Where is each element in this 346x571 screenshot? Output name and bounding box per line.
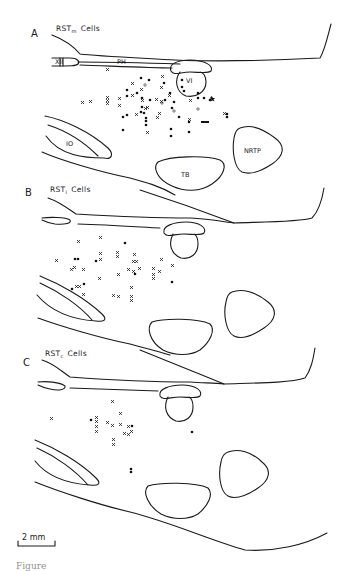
label-io: IO — [66, 140, 73, 148]
panel-a-title: RSTmCells — [56, 24, 100, 34]
panel-c-cell-markers — [50, 400, 193, 473]
panel-b-tb — [149, 319, 212, 354]
panel-a-tb — [156, 157, 224, 190]
panel-b-ph — [78, 224, 160, 228]
panel-c-io-outer — [35, 440, 99, 485]
label-vi: VI — [186, 77, 192, 85]
panel-b-vi-cap — [164, 222, 205, 236]
panel-c-title: RSTcCells — [45, 349, 87, 359]
panel-b-nrtp — [225, 290, 275, 337]
scale-bar-label: 2 mm — [22, 533, 45, 542]
panel-c-xii — [38, 382, 65, 390]
panel-c-tb — [146, 483, 211, 518]
panel-b: B RSTiCells — [25, 185, 324, 355]
panel-c: C RSTcCells — [23, 348, 327, 550]
panel-a-io-outer — [45, 116, 111, 158]
panel-c-ventral-outline — [35, 482, 327, 550]
dot-markers — [122, 77, 229, 138]
panel-b-title: RSTiCells — [50, 185, 91, 195]
panel-a-letter: A — [31, 28, 38, 39]
panel-c-vi-nucleus — [166, 397, 193, 421]
label-xii: XII — [55, 58, 63, 66]
panel-b-io-outer — [37, 276, 105, 321]
panel-a-cell-markers — [81, 68, 228, 137]
panel-b-vi-nucleus — [171, 234, 198, 258]
panel-c-ph — [70, 388, 158, 391]
label-ph: PH — [117, 58, 126, 66]
label-nrtp: NRTP — [244, 147, 261, 155]
scale-bar: 2 mm — [18, 533, 55, 546]
panel-c-vi-cap — [160, 385, 201, 399]
panel-c-upper-curve — [140, 350, 224, 384]
label-tb: TB — [180, 171, 189, 179]
cross-markers — [81, 68, 226, 134]
figure-caption-fragment: Figure — [16, 561, 46, 571]
panel-a-ph-tube — [78, 62, 180, 68]
panel-c-letter: C — [23, 357, 30, 368]
panel-b-letter: B — [25, 187, 32, 198]
panel-c-nrtp — [220, 450, 269, 497]
panel-a-vi-cap — [170, 60, 211, 74]
panel-a: A RSTmCells XII PH VI IO TB NRTP — [31, 24, 331, 195]
panel-b-xii — [42, 217, 70, 224]
